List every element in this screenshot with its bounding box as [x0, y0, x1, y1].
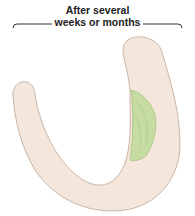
u-shape-diagram — [0, 0, 195, 216]
caption-line-2: weeks or months — [52, 16, 144, 28]
